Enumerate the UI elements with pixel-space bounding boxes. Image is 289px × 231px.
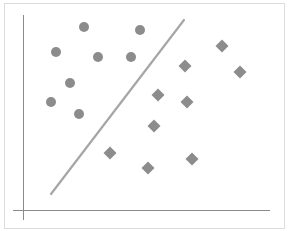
diamond-point: [141, 161, 154, 174]
circle-point: [74, 109, 84, 119]
decision-boundary-line: [51, 20, 184, 194]
scatter-diagram: [0, 0, 289, 231]
diamond-point: [185, 152, 198, 165]
diamond-points: [103, 39, 246, 174]
circle-point: [79, 22, 89, 32]
plot-canvas: [0, 0, 289, 231]
circle-point: [126, 52, 136, 62]
diamond-point: [151, 88, 164, 101]
circle-point: [51, 47, 61, 57]
circle-point: [135, 25, 145, 35]
diamond-point: [233, 65, 246, 78]
diamond-point: [215, 39, 228, 52]
diamond-point: [103, 146, 116, 159]
diamond-point: [147, 119, 160, 132]
circle-points: [46, 22, 145, 119]
diamond-point: [180, 95, 193, 108]
circle-point: [93, 52, 103, 62]
diamond-point: [178, 59, 191, 72]
circle-point: [46, 97, 56, 107]
frame-border: [5, 4, 285, 229]
circle-point: [65, 78, 75, 88]
